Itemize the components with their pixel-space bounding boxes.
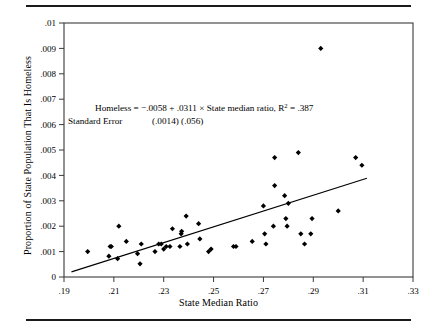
y-tick-label: 0 xyxy=(52,272,57,282)
plot-frame xyxy=(64,23,413,277)
x-tick-label: .21 xyxy=(108,286,119,296)
y-tick-label: .009 xyxy=(40,44,56,54)
scatter-plot: .19.21.23.25.27.29.31.33 0.001.002.003.0… xyxy=(0,0,437,334)
y-tick-label: .01 xyxy=(45,18,56,28)
x-tick-label: .25 xyxy=(208,286,220,296)
annotation-equation: Homeless = −.0058 + .0311 × State median… xyxy=(95,102,314,113)
y-tick-label: .005 xyxy=(40,145,56,155)
y-axis-title: Proportion of State Population That Is H… xyxy=(22,31,33,281)
x-axis-title: State Median Ratio xyxy=(0,297,437,308)
x-tick-label: .31 xyxy=(358,286,369,296)
plot-area-border xyxy=(64,23,413,277)
y-tick-label: .008 xyxy=(40,69,56,79)
y-tick-label: .004 xyxy=(40,171,56,181)
x-tick-label: .29 xyxy=(308,286,320,296)
x-tick-label: .23 xyxy=(158,286,170,296)
x-tick-label: .27 xyxy=(258,286,270,296)
annotation-equation-main: Homeless = −.0058 + .0311 × State median… xyxy=(95,103,285,113)
y-tick-label: .006 xyxy=(40,120,56,130)
annotation-standard-error-values: (.0014) (.056) xyxy=(152,116,203,126)
x-tick-label: .19 xyxy=(58,286,70,296)
y-axis-ticks: 0.001.002.003.004.005.006.007.008.009.01 xyxy=(40,18,64,282)
y-tick-label: .003 xyxy=(40,196,56,206)
y-tick-label: .001 xyxy=(40,247,56,257)
figure-container: .19.21.23.25.27.29.31.33 0.001.002.003.0… xyxy=(0,0,437,334)
annotation-equation-tail: = .387 xyxy=(288,103,314,113)
y-tick-label: .002 xyxy=(40,221,56,231)
chart-svg: .19.21.23.25.27.29.31.33 0.001.002.003.0… xyxy=(0,0,437,334)
y-tick-label: .007 xyxy=(40,94,56,104)
annotation-standard-error-label: Standard Error xyxy=(68,116,122,126)
x-axis-ticks: .19.21.23.25.27.29.31.33 xyxy=(58,277,419,296)
x-tick-label: .33 xyxy=(407,286,419,296)
